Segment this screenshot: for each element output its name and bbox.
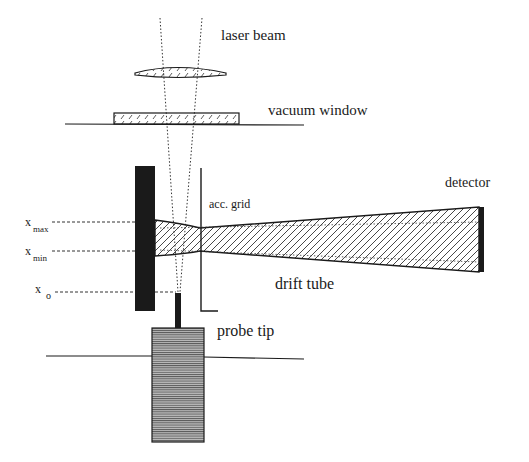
diagram-canvas: laser beam vacuum window acc. grid detec…: [0, 0, 529, 462]
label-vacuum-window: vacuum window: [268, 102, 368, 118]
label-probe-tip: probe tip: [217, 322, 274, 340]
label-laser-beam: laser beam: [221, 27, 286, 43]
label-drift-tube: drift tube: [275, 275, 334, 292]
sample-electrode: [135, 166, 155, 311]
ion-trajectory-region: [155, 207, 479, 272]
probe-tip-needle: [175, 293, 181, 328]
probe-body: [152, 328, 204, 442]
vacuum-wall-bottom-right: [204, 357, 304, 359]
label-x-min: xmin: [25, 244, 48, 263]
label-acc-grid: acc. grid: [209, 197, 250, 211]
vacuum-wall-top: [65, 124, 304, 125]
label-detector: detector: [445, 175, 490, 190]
label-x-0: xo: [35, 282, 51, 301]
vacuum-window: [114, 113, 239, 124]
detector-plate: [479, 207, 484, 272]
focusing-lens: [135, 68, 226, 78]
label-x-max: xmax: [25, 215, 49, 234]
